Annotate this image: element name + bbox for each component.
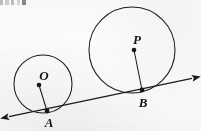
label-point-B: B [138, 95, 148, 110]
point-marker-P [132, 48, 137, 53]
label-center-O: O [39, 68, 49, 83]
label-point-A: A [44, 115, 54, 130]
label-center-P: P [133, 32, 142, 47]
circle-small-O [14, 55, 72, 113]
radius-segment-PB [134, 50, 142, 90]
point-marker-B [140, 88, 145, 93]
point-marker-O [37, 83, 42, 88]
point-marker-A [45, 109, 50, 114]
tangent-line [9, 78, 192, 116]
radius-segment-OA [39, 85, 47, 111]
figure-canvas: O P A B [0, 0, 201, 131]
geometry-figure: O P A B [0, 0, 201, 131]
